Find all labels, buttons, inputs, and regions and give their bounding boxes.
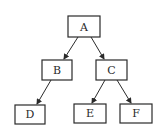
edge-a-c xyxy=(91,37,104,59)
node-b: B xyxy=(42,60,72,80)
node-d: D xyxy=(15,105,45,124)
tree-diagram: A B C D E F xyxy=(0,0,166,137)
node-b-label: B xyxy=(53,64,61,77)
edge-c-f xyxy=(117,80,131,103)
node-c-label: C xyxy=(107,64,115,77)
node-e-label: E xyxy=(86,107,94,120)
edge-c-e xyxy=(92,80,105,103)
node-c: C xyxy=(96,60,127,80)
node-e: E xyxy=(74,104,106,123)
edge-b-d xyxy=(37,80,51,104)
node-d-label: D xyxy=(26,108,35,121)
node-a: A xyxy=(68,16,100,37)
node-f-label: F xyxy=(132,107,140,120)
node-a-label: A xyxy=(79,21,89,34)
edge-a-b xyxy=(64,37,78,59)
node-f: F xyxy=(120,104,152,123)
